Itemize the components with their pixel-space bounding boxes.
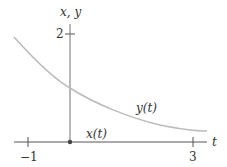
curve-label-y: y(t) <box>135 101 157 115</box>
y-axis-label: x, y <box>60 5 81 19</box>
x-axis-label: t <box>212 135 217 149</box>
curve-y-of-t <box>14 37 207 131</box>
origin-point <box>68 140 72 144</box>
x-tick-label-neg1: −1 <box>20 150 38 164</box>
chart: x, y 2 −1 3 t y(t) x(t) <box>0 0 227 167</box>
x-tick-label-3: 3 <box>189 150 197 164</box>
y-tick-label-2: 2 <box>56 27 64 41</box>
curve-label-x: x(t) <box>86 127 107 141</box>
